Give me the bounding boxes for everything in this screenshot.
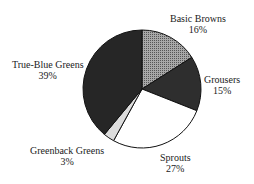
label-pct: 27% [160,163,191,174]
label-pct: 15% [204,85,240,96]
pie-slices [83,30,201,148]
label-pct: 16% [170,24,226,35]
label-name: True-Blue Greens [12,59,84,70]
label-greenback-greens: Greenback Greens 3% [30,145,104,167]
label-name: Greenback Greens [30,145,104,156]
label-grousers: Grousers 15% [204,74,240,96]
label-true-blue-greens: True-Blue Greens 39% [12,59,84,81]
label-name: Sprouts [160,152,191,163]
label-pct: 3% [30,156,104,167]
label-name: Grousers [204,74,240,85]
label-basic-browns: Basic Browns 16% [170,13,226,35]
label-sprouts: Sprouts 27% [160,152,191,174]
label-pct: 39% [12,70,84,81]
label-name: Basic Browns [170,13,226,24]
